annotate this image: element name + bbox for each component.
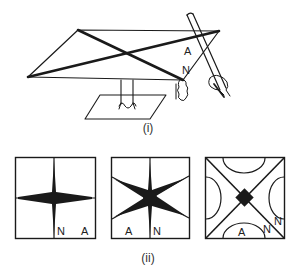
label-antinode-box2: A (125, 226, 132, 237)
label-node-box3-b: N (274, 216, 282, 227)
caption-part-ii: (ii) (133, 252, 163, 264)
label-node-box3-a: N (263, 224, 271, 235)
label-antinode-box1: A (81, 226, 88, 237)
bow-frog (214, 84, 224, 97)
clamp-screw (119, 103, 136, 109)
violin-bow-stick (187, 15, 220, 90)
label-node-box1: N (57, 226, 65, 237)
caption-part-i: (i) (133, 122, 163, 134)
chladni-plate-figure: A N (0, 0, 296, 272)
arc-right (269, 177, 284, 219)
part-i-bowed-plate (28, 13, 230, 119)
arc-top (223, 158, 265, 173)
nodal-line-diagonal-1 (78, 30, 183, 80)
label-node-box2: N (153, 226, 161, 237)
bowing-hand-right (209, 75, 230, 96)
pattern-box-2 (112, 158, 190, 239)
finger-hand-left (176, 79, 188, 101)
violin-bow-tip (187, 13, 193, 15)
label-antinode-box3: A (238, 227, 245, 238)
arc-left (206, 177, 221, 219)
label-node-i: N (182, 64, 190, 76)
label-antinode-i: A (184, 45, 192, 57)
